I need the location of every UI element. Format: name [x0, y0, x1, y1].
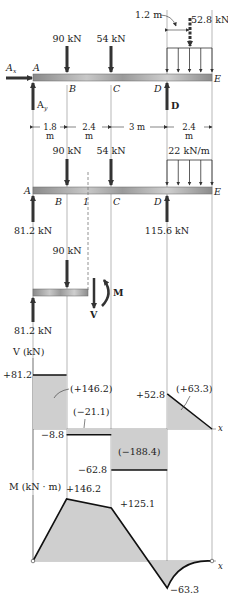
point-label-d: D [153, 83, 162, 94]
moment-label: M [113, 287, 124, 298]
reaction-ax-label: Ax [5, 62, 17, 74]
reaction-label: 81.2 kN [14, 325, 52, 336]
loading-diagram: Ax A Ay 90 kN B 54 kN C 52.8 kN 1.2 m D … [5, 9, 228, 141]
beam [33, 187, 212, 194]
beam-segment [33, 289, 88, 296]
load-c-label: 54 kN [96, 33, 125, 44]
area-label-neg-21-1: (−21.1) [73, 406, 110, 417]
fbd-section: 90 kN 81.2 kN V M [14, 245, 124, 336]
fbd-full-beam: A B 1 C D E 90 kN 54 kN 22 kN/m 81.2 kN … [14, 145, 221, 290]
load-c-label: 54 kN [96, 145, 125, 156]
reaction-a-label: 81.2 kN [14, 225, 52, 236]
offset-leader [160, 15, 176, 26]
load-b-label: 90 kN [52, 145, 81, 156]
value-label-146-2: +146.2 [66, 483, 101, 494]
x-axis-label: x [218, 561, 223, 571]
point-label-c: C [113, 196, 121, 207]
area-label-63-3: (+63.3) [176, 383, 213, 394]
reaction-d-label: D [171, 100, 179, 111]
span-bc-bottom: m [85, 131, 93, 141]
y-axis-label: V (kN) [12, 346, 44, 357]
value-label-neg-8-8: −8.8 [41, 429, 64, 440]
point-label-b: B [54, 196, 62, 207]
distributed-load-label: 22 kN/m [168, 145, 209, 156]
value-label-52-8: +52.8 [136, 389, 165, 400]
point-label-d: D [153, 196, 162, 207]
resultant-label: 52.8 kN [191, 14, 228, 25]
reaction-d-label: 115.6 kN [145, 225, 189, 236]
shear-diagram: x V (kN) +81.2 −8.8 −62.8 +52.8 (+146.2)… [3, 346, 223, 475]
distributed-load [167, 48, 212, 72]
span-ab-bottom: m [46, 131, 54, 141]
moment-arrow [102, 280, 109, 306]
area-label-146-2: (+146.2) [70, 383, 113, 394]
point-label-e: E [213, 73, 221, 84]
shear-label: V [89, 309, 98, 320]
value-label-neg-63-3: −63.3 [170, 584, 199, 595]
point-label-a: A [32, 62, 40, 73]
load-b-label: 90 kN [52, 33, 81, 44]
value-label-81-2: +81.2 [3, 369, 32, 380]
point-label-b: B [68, 83, 76, 94]
area-label-neg-188-4: (−188.4) [118, 446, 161, 457]
point-label-c: C [113, 83, 121, 94]
resultant-offset-label: 1.2 m [135, 9, 162, 20]
guide-lines [33, 10, 212, 561]
beam-analysis-figure: Ax A Ay 90 kN B 54 kN C 52.8 kN 1.2 m D … [0, 0, 228, 595]
distributed-load [167, 160, 212, 185]
point-label-a: A [23, 185, 31, 196]
point-label-e: E [213, 186, 221, 197]
span-cd-top: 3 m [129, 122, 145, 132]
beam [33, 74, 212, 81]
reaction-ay-label: Ay [36, 99, 48, 112]
moment-endpoint-e [210, 559, 214, 563]
moment-diagram: x M (kN · m) +146.2 +125.1 −63.3 [9, 481, 223, 595]
value-label-neg-62-8: −62.8 [78, 464, 107, 475]
value-label-125-1: +125.1 [120, 498, 155, 509]
span-de-bottom: m [185, 131, 193, 141]
moment-endpoint-a [31, 559, 35, 563]
y-axis-label: M (kN · m) [9, 481, 61, 492]
load-label: 90 kN [52, 245, 81, 256]
x-axis-label: x [218, 423, 223, 433]
area-leader [84, 419, 85, 428]
